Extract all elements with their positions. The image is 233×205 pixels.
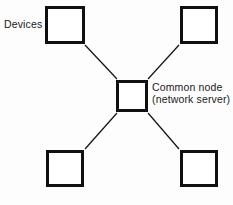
link-top-right-to-common-node — [148, 45, 179, 79]
common-node-label: Common node (network server) — [152, 82, 230, 105]
common-node-box — [116, 80, 148, 112]
device-node-bottom-right — [180, 150, 218, 187]
network-topology-diagram: Devices Common node (network server) — [0, 0, 233, 205]
devices-label: Devices — [4, 19, 42, 31]
device-node-top-right — [180, 6, 218, 44]
link-bottom-left-to-common-node — [85, 113, 117, 149]
link-top-left-to-common-node — [85, 45, 117, 79]
device-node-top-left — [45, 6, 85, 44]
device-node-bottom-left — [46, 150, 84, 187]
common-node-label-line-1: Common node — [152, 82, 230, 94]
common-node-label-line-2: (network server) — [152, 94, 230, 106]
link-bottom-right-to-common-node — [148, 113, 179, 149]
